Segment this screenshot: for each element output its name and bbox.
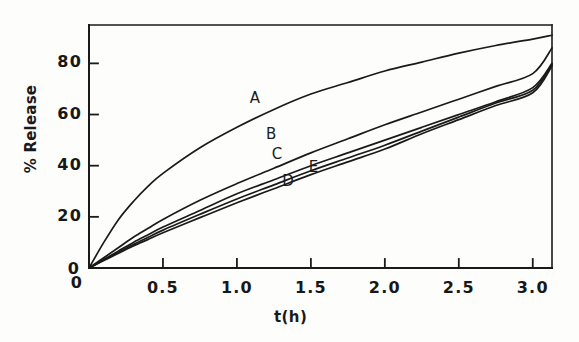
curve-label-e: E <box>309 158 318 176</box>
y-tick-label-80: 80 <box>42 52 82 71</box>
x-axis-title: t(h) <box>274 308 307 326</box>
x-tick-label-2-5: 2.5 <box>434 278 484 297</box>
curve-d <box>89 65 552 268</box>
y-tick-label-60: 60 <box>42 104 82 123</box>
curves-group <box>89 35 552 268</box>
x-tick-label-0-5: 0.5 <box>138 278 188 297</box>
x-tick-label-1: 1.0 <box>212 278 262 297</box>
y-axis-title: % Release <box>22 74 40 184</box>
x-origin-label: 0 <box>66 273 88 292</box>
figure-container: % Release t(h) 020406080 00.51.01.52.02.… <box>0 0 579 342</box>
y-tick-label-20: 20 <box>42 206 82 225</box>
y-tick-label-40: 40 <box>42 155 82 174</box>
x-tick-label-2: 2.0 <box>360 278 410 297</box>
curve-c <box>89 63 552 268</box>
curve-label-c: C <box>272 145 282 163</box>
x-tick-label-3: 3.0 <box>508 278 558 297</box>
curve-label-a: A <box>250 89 260 107</box>
x-tick-label-1-5: 1.5 <box>286 278 336 297</box>
curve-label-b: B <box>266 125 276 143</box>
curve-label-d: D <box>282 172 294 190</box>
